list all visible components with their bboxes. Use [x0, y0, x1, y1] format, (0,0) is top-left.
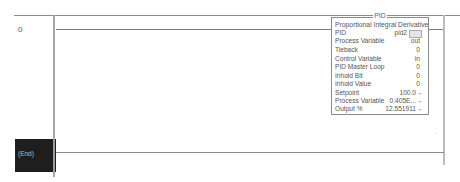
operand-label: Control Variable	[335, 55, 382, 63]
operand-value[interactable]: 12.551911	[385, 105, 416, 113]
pid-instruction-block[interactable]: PID Proportional Integral Derivative PID…	[331, 17, 429, 115]
pid-block-title: PID	[332, 12, 428, 19]
operand-value[interactable]: 0	[416, 72, 420, 80]
pid-tag-row: PID pid2	[335, 29, 424, 37]
value-arrow-icon: ←	[418, 105, 425, 113]
operand-value[interactable]: 0	[416, 46, 420, 54]
operand-value[interactable]: 0.405E...	[390, 97, 416, 105]
operand-label: Inhold Value	[335, 80, 371, 88]
operand-label: Output %	[335, 105, 363, 113]
pid-description: Proportional Integral Derivative	[335, 21, 428, 28]
pid-operand-row: Inhold Value 0	[335, 80, 424, 88]
pid-operand-row: Control Variable in	[335, 55, 424, 63]
value-arrow-icon: ←	[418, 97, 425, 105]
pid-operand-row: Process Variable out	[335, 37, 424, 45]
pid-tag-label: PID	[335, 29, 346, 37]
pid-operand-row: Process Variable 0.405E... ←	[335, 97, 424, 105]
operand-label: Process Variable	[335, 37, 384, 45]
operand-label: PID Master Loop	[335, 63, 384, 71]
pid-operand-row: Tieback 0	[335, 46, 424, 54]
operand-value[interactable]: 0	[416, 63, 420, 71]
pid-tag-value[interactable]: pid2	[395, 29, 407, 37]
rung-number: 0	[18, 25, 22, 34]
pid-operand-row: Output % 12.551911 ←	[335, 105, 424, 113]
pid-operand-row: Setpoint 100.0 ←	[335, 89, 424, 97]
operand-label: Inhold Bit	[335, 72, 363, 80]
operand-value[interactable]: 100.0	[399, 89, 416, 97]
operand-label: Setpoint	[335, 89, 359, 97]
pid-operand-row: PID Master Loop 0	[335, 63, 424, 71]
rung-wire-left	[56, 29, 331, 30]
operand-label: Process Variable	[335, 97, 384, 105]
operand-value[interactable]: out	[411, 37, 420, 45]
rung-wire-right	[428, 29, 443, 30]
end-rung-wire	[56, 152, 444, 153]
operand-label: Tieback	[335, 46, 358, 54]
pid-operand-row: Inhold Bit 0	[335, 72, 424, 80]
decorative-dot	[436, 133, 437, 134]
left-power-rail-segment	[53, 139, 55, 173]
right-power-rail	[443, 15, 445, 165]
operand-value[interactable]: 0	[416, 80, 420, 88]
value-arrow-icon: ←	[418, 89, 425, 97]
operand-value[interactable]: in	[415, 55, 420, 63]
end-label: (End)	[18, 150, 34, 157]
